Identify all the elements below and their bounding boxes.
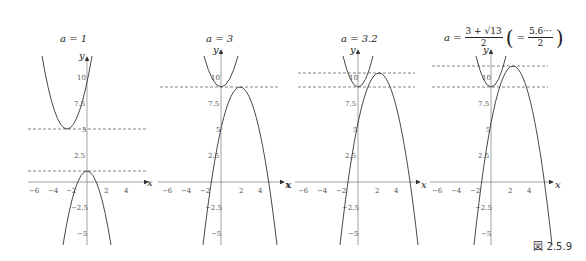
svg-text:10: 10 — [77, 74, 86, 82]
panel-4: y x x −6 −4 −2 2 4 10 7.5 5 2.5 −2.5 −5 — [421, 44, 561, 245]
svg-text:−4: −4 — [451, 187, 462, 195]
svg-text:7.5: 7.5 — [74, 100, 85, 108]
svg-text:2: 2 — [239, 187, 243, 195]
svg-text:−2: −2 — [336, 187, 346, 195]
panel-3: y x x −6 −4 −2 2 4 10 7.5 5 2.5 −2.5 −5 — [286, 44, 427, 245]
figure-caption: 図 2.5.9 — [533, 238, 572, 253]
svg-text:−2.5: −2.5 — [71, 204, 88, 212]
panel-2: y x x −6 −4 −2 2 4 10 7.5 5 2.5 −2.5 −5 — [147, 44, 291, 245]
panel-1: y −6 −4 −2 2 4 10 7.5 5 2.5 −2.5 −5 — [28, 50, 148, 245]
svg-text:−2: −2 — [470, 187, 480, 195]
svg-text:−4: −4 — [48, 187, 59, 195]
svg-text:x: x — [286, 179, 292, 190]
svg-text:4: 4 — [258, 187, 263, 195]
svg-text:−4: −4 — [317, 187, 328, 195]
svg-text:y: y — [482, 44, 489, 55]
svg-text:2: 2 — [375, 187, 379, 195]
svg-text:x: x — [555, 179, 561, 190]
svg-text:−6: −6 — [432, 187, 443, 195]
svg-text:7.5: 7.5 — [478, 100, 489, 108]
svg-text:y: y — [349, 44, 356, 55]
svg-text:−5: −5 — [77, 230, 87, 238]
svg-text:10: 10 — [211, 74, 220, 82]
svg-text:4: 4 — [124, 187, 129, 195]
svg-text:7.5: 7.5 — [208, 100, 219, 108]
svg-text:−6: −6 — [29, 187, 40, 195]
svg-text:5: 5 — [82, 126, 86, 134]
svg-text:2.5: 2.5 — [74, 152, 85, 160]
svg-text:2: 2 — [104, 187, 108, 195]
svg-text:−5: −5 — [348, 230, 358, 238]
svg-text:−5: −5 — [211, 230, 221, 238]
chart-canvas: y −6 −4 −2 2 4 10 7.5 5 2.5 −2.5 −5 y x … — [0, 0, 586, 261]
svg-text:−4: −4 — [181, 187, 192, 195]
svg-text:2.5: 2.5 — [478, 152, 489, 160]
svg-text:2.5: 2.5 — [345, 152, 356, 160]
svg-text:y: y — [212, 44, 219, 55]
svg-text:4: 4 — [527, 187, 532, 195]
svg-text:4: 4 — [394, 187, 399, 195]
svg-text:2.5: 2.5 — [208, 152, 219, 160]
svg-text:2: 2 — [508, 187, 512, 195]
svg-text:7.5: 7.5 — [345, 100, 356, 108]
svg-text:−6: −6 — [298, 187, 309, 195]
svg-text:x: x — [147, 177, 153, 188]
svg-text:−6: −6 — [162, 187, 173, 195]
svg-text:−2: −2 — [200, 187, 210, 195]
svg-text:y: y — [78, 50, 85, 61]
svg-text:−5: −5 — [481, 230, 491, 238]
